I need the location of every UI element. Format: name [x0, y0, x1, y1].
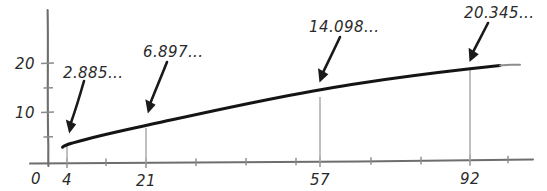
data-curve	[63, 65, 501, 147]
annotation-label-14098: 14.098...	[309, 18, 379, 36]
origin-label-0: 0	[31, 170, 41, 188]
annotation-label-20345: 20.345...	[464, 4, 534, 22]
y-axis-label-10: 10	[15, 104, 35, 122]
axes-group	[30, 10, 533, 168]
arrow-6897	[145, 62, 167, 114]
annotation-arrows	[66, 23, 488, 134]
y-tick-20	[41, 63, 54, 64]
x-axis-label-57: 57	[310, 171, 330, 189]
data-curve-tail	[500, 65, 520, 66]
arrow-2885	[66, 81, 84, 134]
x-axis-label-92: 92	[460, 170, 480, 188]
x-axis-label-4: 4	[62, 171, 72, 189]
arrow-14098	[318, 37, 340, 83]
chart-canvas: 2.885... 6.897... 14.098... 20.345... 20…	[0, 0, 547, 191]
x-axis-label-21: 21	[136, 172, 156, 190]
y-axis-label-20: 20	[15, 55, 35, 73]
sketch-line-chart: 2.885... 6.897... 14.098... 20.345... 20…	[0, 0, 547, 191]
annotation-label-6897: 6.897...	[143, 43, 203, 61]
arrow-20345	[469, 23, 488, 62]
droplines-group	[67, 70, 470, 163]
annotation-label-2885: 2.885...	[63, 64, 123, 82]
